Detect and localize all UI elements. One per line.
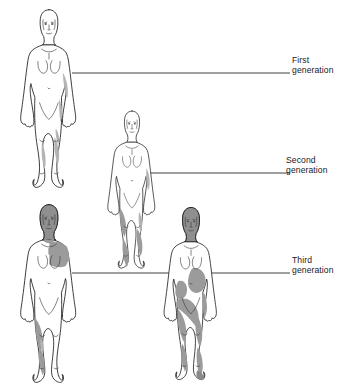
diagram-canvas: .bodyline { fill: #ffffff; stroke: #1a1a… xyxy=(0,0,341,392)
label-second-generation: Second generation xyxy=(286,155,328,176)
label-third-generation: Third generation xyxy=(292,255,334,276)
label-third-generation-word: generation xyxy=(292,265,334,275)
body-figure-3 xyxy=(21,205,76,383)
label-first-ordinal: First xyxy=(292,55,334,65)
label-third-ordinal: Third xyxy=(292,255,334,265)
label-second-ordinal: Second xyxy=(286,155,328,165)
label-first-generation-word: generation xyxy=(292,65,334,75)
body-figure-1 xyxy=(21,10,76,188)
generation-diagram: .bodyline { fill: #ffffff; stroke: #1a1a… xyxy=(0,0,341,392)
label-first-generation: First generation xyxy=(292,55,334,76)
body-figure-4 xyxy=(164,208,216,381)
body-figure-2 xyxy=(108,111,155,268)
label-second-generation-word: generation xyxy=(286,165,328,175)
